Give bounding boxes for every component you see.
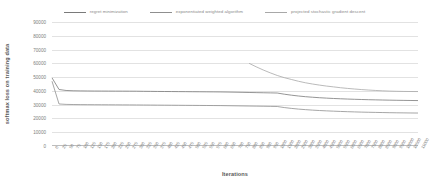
series-line [52,78,418,101]
x-axis-tick-labels: 0255075100125150175200225250275300325350… [52,147,418,171]
legend-swatch-projected-stochastic-gradient-descent [265,12,287,13]
legend-item-projected-stochastic-gradient-descent[interactable]: projected stochastic gradient descent [265,9,365,15]
series-line [52,81,418,113]
y-axis-tick-label: 0 [43,144,46,149]
legend-swatch-exponentiated-weighted-algorithm [150,12,172,13]
y-axis-tick-label: 40000 [33,88,46,93]
legend-label-regret-minimization: regret minimization [90,9,128,15]
series-lines [52,22,418,146]
y-axis-tick-label: 50000 [33,75,46,80]
legend-label-projected-stochastic-gradient-descent: projected stochastic gradient descent [291,9,365,15]
legend-label-exponentiated-weighted-algorithm: exponentiated weighted algorithm [176,9,243,15]
y-axis-tick-label: 70000 [33,47,46,52]
x-axis-tick-label: 50 [68,143,75,150]
chart-legend: regret minimization exponentiated weight… [0,6,429,18]
y-axis-tick-label: 90000 [33,20,46,25]
y-axis-tick-label: 60000 [33,61,46,66]
x-axis-tick-label: 75 [75,143,82,150]
y-axis-tick-label: 30000 [33,102,46,107]
y-axis-tick-label: 10000 [33,130,46,135]
y-axis-tick-labels: 0100002000030000400005000060000700008000… [0,22,50,146]
y-axis-tick-label: 80000 [33,33,46,38]
legend-item-regret-minimization[interactable]: regret minimization [64,9,128,15]
x-axis-title: Iterations [52,171,418,177]
legend-item-exponentiated-weighted-algorithm[interactable]: exponentiated weighted algorithm [150,9,243,15]
series-line [249,63,418,91]
plot-area [52,22,418,146]
legend-swatch-regret-minimization [64,12,86,13]
y-axis-tick-label: 20000 [33,116,46,121]
x-axis-tick-label: 25 [61,143,68,150]
